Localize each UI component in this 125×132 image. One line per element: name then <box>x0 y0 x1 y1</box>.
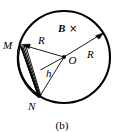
center-point-label: O <box>69 54 77 66</box>
point-n-label: N <box>27 100 36 112</box>
height-label: h <box>46 67 52 79</box>
point-m-label: M <box>2 39 13 51</box>
radius-line-on <box>39 57 64 98</box>
radius-right-arrowhead <box>95 33 104 40</box>
physics-figure-rotating-chord-in-magnetic-field: B × R R h O M N (b) <box>0 0 125 132</box>
center-point-dot <box>62 55 66 59</box>
sliver-edge-line-4 <box>26 46 41 96</box>
radius-left-line <box>26 46 65 57</box>
figure-canvas: B × R R h O M N (b) <box>0 0 125 132</box>
figure-caption: (b) <box>56 119 69 132</box>
magnetic-field-label: B <box>57 22 65 34</box>
radius-left-label: R <box>37 34 45 46</box>
radius-right-label: R <box>86 48 94 60</box>
field-into-page-cross-icon: × <box>69 23 77 34</box>
